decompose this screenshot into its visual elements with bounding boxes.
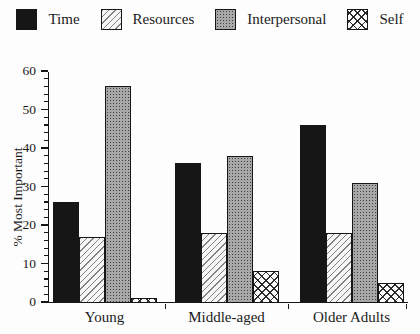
bar-young-resources	[79, 237, 105, 302]
y-minor-tick-58	[44, 78, 48, 79]
legend-label-self: Self	[379, 12, 403, 27]
bar-chart-figure: TimeResourcesInterpersonalSelf % Most Im…	[0, 0, 420, 334]
y-minor-tick-32	[44, 178, 48, 179]
y-minor-tick-22	[44, 217, 48, 218]
x-category-label-young: Young	[85, 310, 124, 325]
plot-area: % Most Important 0102030405060YoungMiddl…	[48, 72, 408, 303]
interpersonal-swatch-icon	[215, 9, 236, 30]
y-minor-tick-36	[44, 163, 48, 164]
legend-item-self: Self	[347, 9, 403, 30]
legend-label-resources: Resources	[133, 12, 195, 27]
y-minor-tick-44	[44, 132, 48, 133]
y-minor-tick-54	[44, 94, 48, 95]
y-major-tick-60	[41, 70, 48, 71]
y-minor-tick-48	[44, 117, 48, 118]
y-tick-label-60: 60	[6, 64, 36, 78]
y-minor-tick-8	[44, 271, 48, 272]
bar-young-time	[53, 202, 79, 302]
bar-older-adults-time	[300, 125, 326, 302]
x-category-label-middle-aged: Middle-aged	[188, 310, 265, 325]
y-tick-label-50: 50	[6, 103, 36, 117]
y-minor-tick-12	[44, 255, 48, 256]
x-category-label-older-adults: Older Adults	[313, 310, 390, 325]
y-minor-tick-18	[44, 232, 48, 233]
bar-middle-aged-resources	[201, 233, 227, 302]
y-minor-tick-56	[44, 86, 48, 87]
bar-middle-aged-time	[175, 163, 201, 302]
bar-older-adults-self	[378, 283, 404, 302]
y-major-tick-40	[41, 147, 48, 148]
resources-swatch-icon	[101, 9, 122, 30]
legend-label-time: Time	[48, 12, 79, 27]
y-major-tick-10	[41, 263, 48, 264]
x-separator-tick-1	[165, 304, 166, 310]
bar-middle-aged-self	[253, 271, 279, 302]
y-major-tick-30	[41, 186, 48, 187]
y-minor-tick-16	[44, 240, 48, 241]
bar-middle-aged-interpersonal	[227, 156, 253, 302]
y-minor-tick-14	[44, 248, 48, 249]
y-tick-label-30: 30	[6, 180, 36, 194]
y-minor-tick-52	[44, 101, 48, 102]
y-minor-tick-2	[44, 294, 48, 295]
y-minor-tick-34	[44, 171, 48, 172]
y-minor-tick-28	[44, 194, 48, 195]
y-tick-label-0: 0	[6, 295, 36, 309]
y-major-tick-0	[41, 301, 48, 302]
y-major-tick-50	[41, 109, 48, 110]
chart-legend: TimeResourcesInterpersonalSelf	[0, 6, 420, 32]
y-major-tick-20	[41, 224, 48, 225]
y-tick-label-10: 10	[6, 257, 36, 271]
legend-item-time: Time	[16, 9, 79, 30]
y-minor-tick-42	[44, 140, 48, 141]
bar-young-self	[131, 298, 157, 302]
y-minor-tick-46	[44, 124, 48, 125]
y-tick-label-40: 40	[6, 141, 36, 155]
self-swatch-icon	[347, 9, 368, 30]
bar-older-adults-resources	[326, 233, 352, 302]
bar-young-interpersonal	[105, 86, 131, 302]
time-swatch-icon	[16, 9, 37, 30]
legend-label-interpersonal: Interpersonal	[247, 12, 326, 27]
y-minor-tick-4	[44, 286, 48, 287]
bar-older-adults-interpersonal	[352, 183, 378, 302]
y-minor-tick-24	[44, 209, 48, 210]
legend-item-interpersonal: Interpersonal	[215, 9, 326, 30]
x-separator-tick-3	[406, 304, 407, 310]
legend-item-resources: Resources	[101, 9, 195, 30]
y-tick-label-20: 20	[6, 218, 36, 232]
y-minor-tick-6	[44, 278, 48, 279]
x-separator-tick-2	[288, 304, 289, 310]
y-minor-tick-38	[44, 155, 48, 156]
y-minor-tick-26	[44, 201, 48, 202]
